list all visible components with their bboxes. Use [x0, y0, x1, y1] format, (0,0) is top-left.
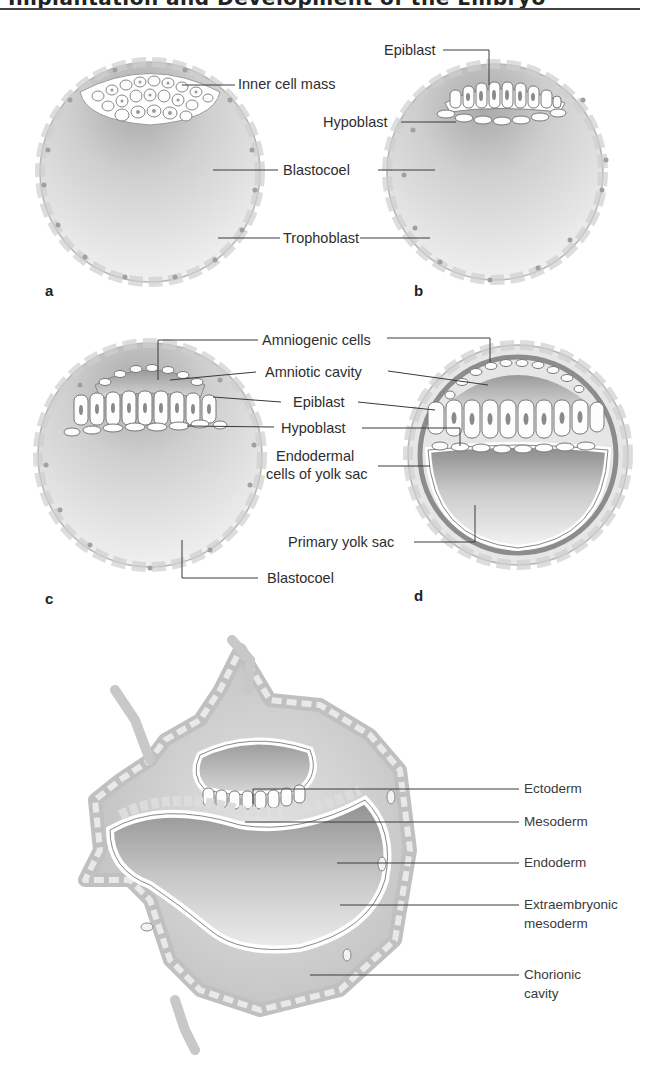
panel-b-blastocyst — [360, 50, 609, 283]
label-mesoderm: Mesoderm — [524, 812, 588, 831]
label-endoderm: Endoderm — [524, 853, 586, 872]
label-ectoderm: Ectoderm — [524, 779, 582, 798]
panel-letter-b: b — [414, 282, 423, 299]
label-hypoblast-b: Hypoblast — [323, 114, 387, 130]
label-endodermal-line1: Endodermal — [276, 448, 354, 464]
label-amniogenic-cells: Amniogenic cells — [262, 332, 371, 348]
label-blastocoel-c: Blastocoel — [267, 570, 334, 586]
label-blastocoel-a: Blastocoel — [283, 162, 350, 178]
label-primary-yolk-sac: Primary yolk sac — [288, 534, 394, 550]
panel-letter-d: d — [414, 587, 423, 604]
label-chorionic-line2: cavity — [524, 984, 559, 1003]
label-inner-cell-mass: Inner cell mass — [238, 76, 336, 92]
panel-letter-a: a — [45, 282, 53, 299]
label-endodermal-line2: cells of yolk sac — [266, 466, 368, 482]
label-chorionic-line1: Chorionic — [524, 965, 581, 984]
label-epiblast-b: Epiblast — [384, 42, 436, 58]
label-hypoblast-c: Hypoblast — [281, 420, 345, 436]
panel-a-blastocyst — [40, 62, 280, 282]
label-extraembryonic-line1: Extraembryonic — [524, 895, 618, 914]
label-amniotic-cavity: Amniotic cavity — [265, 364, 362, 380]
panel-e-trilaminar-embryo — [85, 640, 519, 1050]
panel-letter-c: c — [45, 590, 53, 607]
label-epiblast-c: Epiblast — [293, 394, 345, 410]
label-extraembryonic-line2: mesoderm — [524, 914, 588, 933]
panel-c-blastocyst — [38, 340, 281, 578]
panel-d-bilaminar-disc — [358, 338, 628, 565]
label-trophoblast: Trophoblast — [283, 230, 359, 246]
